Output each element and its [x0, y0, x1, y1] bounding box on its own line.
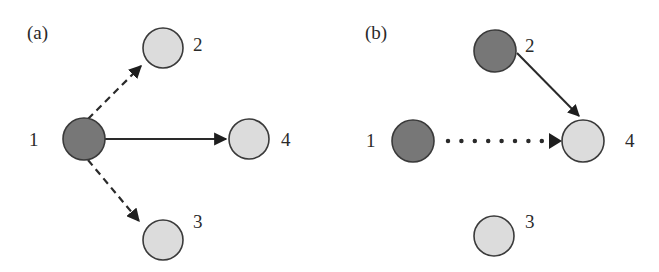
node-label: 3	[193, 211, 203, 232]
node-light-icon	[562, 120, 604, 162]
panel-b-node-4: 4	[562, 120, 635, 162]
panel-a: (a) 1 2 3 4	[27, 22, 291, 260]
node-dark-icon	[474, 30, 516, 72]
panel-a-edges	[88, 66, 226, 221]
node-dark-icon	[63, 118, 105, 160]
panel-a-node-4: 4	[229, 119, 291, 159]
edge-1-to-2-dashed	[88, 66, 141, 119]
node-light-icon	[229, 119, 269, 159]
arrowhead-icon	[549, 133, 562, 149]
node-light-icon	[474, 216, 514, 256]
node-light-icon	[143, 220, 183, 260]
edge-1-to-3-dashed	[88, 160, 139, 221]
node-label: 3	[525, 211, 535, 232]
node-label: 1	[29, 129, 39, 150]
diagram-canvas: (a) 1 2 3 4 (b)	[0, 0, 659, 272]
panel-b: (b) 1 2 3 4	[365, 22, 635, 256]
node-label: 4	[281, 129, 291, 150]
node-label: 2	[525, 35, 535, 56]
panel-a-node-3: 3	[143, 211, 203, 260]
edge-2-to-4-solid	[517, 53, 579, 116]
panel-a-node-1: 1	[29, 118, 105, 160]
node-light-icon	[143, 28, 183, 68]
node-label: 4	[625, 130, 635, 151]
panel-b-node-1: 1	[366, 120, 434, 162]
panel-b-edges	[448, 53, 579, 149]
panel-b-node-3: 3	[474, 211, 535, 256]
panel-b-label: (b)	[365, 22, 387, 44]
panel-a-node-2: 2	[143, 28, 203, 68]
node-label: 1	[366, 130, 376, 151]
panel-b-node-2: 2	[474, 30, 535, 72]
node-label: 2	[193, 34, 203, 55]
panel-a-label: (a)	[27, 22, 48, 44]
node-dark-icon	[392, 120, 434, 162]
